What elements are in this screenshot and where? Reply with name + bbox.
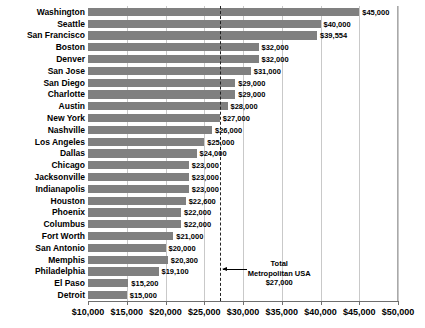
x-tick-label: $20,000 bbox=[149, 307, 182, 317]
category-label: San Diego bbox=[2, 78, 85, 87]
bar bbox=[88, 279, 128, 287]
category-label: Detroit bbox=[2, 291, 85, 300]
category-label: Dallas bbox=[2, 149, 85, 158]
bar-value-label: $21,000 bbox=[176, 232, 203, 241]
bar-value-label: $32,000 bbox=[262, 55, 289, 64]
category-label: Los Angeles bbox=[2, 137, 85, 146]
bar-row: $29,000Charlotte bbox=[88, 90, 398, 98]
bar-row: $22,000Phoenix bbox=[88, 208, 398, 216]
bar bbox=[88, 79, 235, 87]
bar bbox=[88, 197, 186, 205]
bar-value-label: $40,000 bbox=[324, 19, 351, 28]
category-label: Charlotte bbox=[2, 90, 85, 99]
category-label: New York bbox=[2, 114, 85, 123]
bar-row: $15,200El Paso bbox=[88, 279, 398, 287]
bar-row: $23,000Indianapolis bbox=[88, 185, 398, 193]
x-tick-label: $40,000 bbox=[304, 307, 337, 317]
bar bbox=[88, 244, 166, 252]
x-tick bbox=[321, 301, 322, 305]
bar bbox=[88, 185, 189, 193]
bar-value-label: $22,000 bbox=[184, 208, 211, 217]
bar-row: $28,000Austin bbox=[88, 102, 398, 110]
bar-row: $22,600Houston bbox=[88, 197, 398, 205]
category-label: Nashville bbox=[2, 125, 85, 134]
bar-value-label: $23,000 bbox=[192, 184, 219, 193]
category-label: Memphis bbox=[2, 255, 85, 264]
bar bbox=[88, 67, 251, 75]
bar-value-label: $29,000 bbox=[238, 90, 265, 99]
bar-row: $25,000Los Angeles bbox=[88, 138, 398, 146]
bar bbox=[88, 291, 127, 299]
x-tick bbox=[359, 301, 360, 305]
bar-value-label: $23,000 bbox=[192, 161, 219, 170]
bar bbox=[88, 43, 259, 51]
bar bbox=[88, 102, 228, 110]
bar-value-label: $15,200 bbox=[131, 279, 158, 288]
bar-chart: $45,000Washington$40,000Seattle$39,554Sa… bbox=[0, 0, 425, 328]
x-tick bbox=[166, 301, 167, 305]
bar-row: $23,000Jacksonville bbox=[88, 173, 398, 181]
bar bbox=[88, 208, 181, 216]
bar-row: $15,000Detroit bbox=[88, 291, 398, 299]
x-tick-label: $35,000 bbox=[265, 307, 298, 317]
category-label: Chicago bbox=[2, 161, 85, 170]
bar bbox=[88, 267, 159, 275]
x-tick-label: $15,000 bbox=[110, 307, 143, 317]
bar-value-label: $27,000 bbox=[223, 114, 250, 123]
category-label: Indianapolis bbox=[2, 184, 85, 193]
x-tick-label: $10,000 bbox=[72, 307, 105, 317]
x-tick-label: $30,000 bbox=[227, 307, 260, 317]
bar-value-label: $22,600 bbox=[189, 196, 216, 205]
x-tick bbox=[127, 301, 128, 305]
bar-row: $39,554San Francisco bbox=[88, 31, 398, 39]
category-label: Philadelphia bbox=[2, 267, 85, 276]
bar bbox=[88, 20, 321, 28]
bar-value-label: $25,000 bbox=[207, 137, 234, 146]
bar-value-label: $28,000 bbox=[231, 102, 258, 111]
bar-row: $20,000San Antonio bbox=[88, 244, 398, 252]
bar-row: $32,000Denver bbox=[88, 55, 398, 63]
x-tick bbox=[204, 301, 205, 305]
category-label: Denver bbox=[2, 55, 85, 64]
bar bbox=[88, 90, 235, 98]
bar-row: $45,000Washington bbox=[88, 8, 398, 16]
bar-value-label: $20,000 bbox=[169, 243, 196, 252]
category-label: Jacksonville bbox=[2, 173, 85, 182]
x-tick-label: $50,000 bbox=[382, 307, 415, 317]
bar-row: $23,000Chicago bbox=[88, 161, 398, 169]
x-tick-label: $25,000 bbox=[188, 307, 221, 317]
bar-value-label: $15,000 bbox=[130, 291, 157, 300]
x-tick bbox=[243, 301, 244, 305]
bar-value-label: $29,000 bbox=[238, 78, 265, 87]
bar-row: $31,000San Jose bbox=[88, 67, 398, 75]
bar-row: $27,000New York bbox=[88, 114, 398, 122]
benchmark-arrow bbox=[223, 269, 247, 270]
x-tick-label: $45,000 bbox=[343, 307, 376, 317]
bar bbox=[88, 126, 212, 134]
bar-value-label: $39,554 bbox=[320, 31, 347, 40]
bar bbox=[88, 31, 317, 39]
bar-row: $21,000Fort Worth bbox=[88, 232, 398, 240]
bar-value-label: $19,100 bbox=[162, 267, 189, 276]
bar bbox=[88, 256, 168, 264]
bar bbox=[88, 232, 173, 240]
bar-value-label: $32,000 bbox=[262, 43, 289, 52]
category-label: Seattle bbox=[2, 19, 85, 28]
plot-area: $45,000Washington$40,000Seattle$39,554Sa… bbox=[88, 6, 398, 301]
category-label: Boston bbox=[2, 43, 85, 52]
category-label: Houston bbox=[2, 196, 85, 205]
bar bbox=[88, 55, 259, 63]
bar bbox=[88, 220, 181, 228]
bar bbox=[88, 149, 197, 157]
bar-value-label: $22,000 bbox=[184, 220, 211, 229]
benchmark-label: TotalMetropolitan USA$27,000 bbox=[248, 259, 311, 288]
category-label: El Paso bbox=[2, 279, 85, 288]
bar-row: $22,000Columbus bbox=[88, 220, 398, 228]
category-label: Fort Worth bbox=[2, 232, 85, 241]
benchmark-line bbox=[220, 6, 221, 301]
bar-row: $20,300Memphis bbox=[88, 256, 398, 264]
bar-value-label: $31,000 bbox=[254, 66, 281, 75]
category-label: San Jose bbox=[2, 66, 85, 75]
bar bbox=[88, 173, 189, 181]
category-label: Columbus bbox=[2, 220, 85, 229]
